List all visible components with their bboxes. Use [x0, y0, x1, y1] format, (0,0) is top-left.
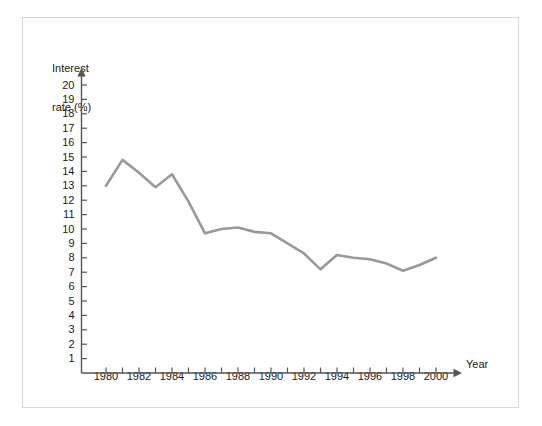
chart-plot-area	[0, 0, 542, 426]
data-series-line	[106, 160, 436, 271]
chart-axes	[77, 68, 462, 377]
y-axis-arrow-icon	[77, 68, 85, 77]
data-line-path	[106, 160, 436, 271]
x-axis-arrow-icon	[454, 369, 463, 377]
chart-figure: Interest rate (%) Year 20191817161514131…	[0, 0, 542, 426]
